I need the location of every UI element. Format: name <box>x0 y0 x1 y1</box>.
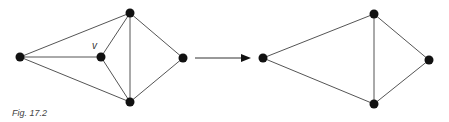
node-right <box>425 56 434 65</box>
left-graph: v <box>16 9 188 107</box>
edge-t-r <box>130 13 183 58</box>
arrow-head-icon <box>241 54 251 62</box>
vertex-label-v: v <box>92 40 98 51</box>
edge-l-t <box>20 13 130 57</box>
edge-v-b <box>101 57 130 102</box>
node-bottom <box>126 98 135 107</box>
right-graph <box>259 10 434 109</box>
edge-t-r <box>374 14 429 60</box>
edge-l-b <box>20 57 130 102</box>
node-bottom <box>370 100 379 109</box>
node-top <box>126 9 135 18</box>
edge-v-t <box>101 13 130 57</box>
edge-l-t <box>263 14 374 58</box>
transformation-arrow <box>195 54 251 62</box>
edge-l-b <box>263 58 374 104</box>
node-left <box>16 53 25 62</box>
edge-b-r <box>374 60 429 104</box>
node-left <box>259 54 268 63</box>
graph-diagram: v <box>0 0 449 122</box>
figure-caption: Fig. 17.2 <box>12 108 47 118</box>
edge-b-r <box>130 58 183 102</box>
node-v <box>97 53 106 62</box>
node-top <box>370 10 379 19</box>
node-right <box>179 54 188 63</box>
